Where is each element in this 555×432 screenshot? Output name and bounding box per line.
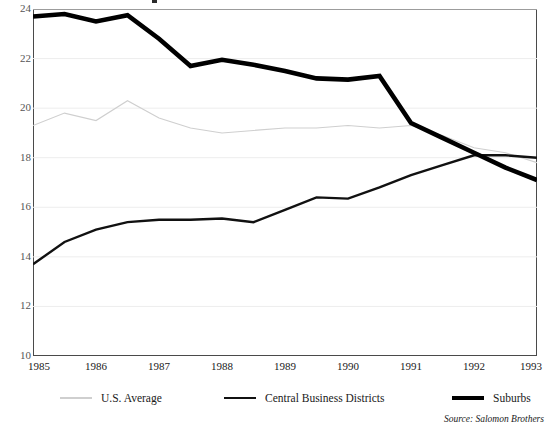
- x-axis-tick-label: 1988: [211, 360, 233, 372]
- legend-item-u-s-average[interactable]: U.S. Average: [60, 392, 162, 404]
- y-axis-tick-label: 14: [5, 251, 31, 262]
- chart-legend: U.S. AverageCentral Business DistrictsSu…: [0, 392, 555, 412]
- legend-swatch-icon: [60, 397, 92, 398]
- x-axis-tick-label: 1992: [463, 360, 485, 372]
- x-axis-tick-label: 1985: [28, 360, 50, 372]
- x-axis-tick-label: 1986: [85, 360, 107, 372]
- y-axis-tick-label: 24: [5, 3, 31, 14]
- y-axis-tick-label: 12: [5, 300, 31, 311]
- series-paths: [33, 14, 537, 264]
- legend-label: Suburbs: [493, 392, 531, 404]
- y-axis-tick-label: 16: [5, 201, 31, 212]
- x-axis-tick-label: 1991: [400, 360, 422, 372]
- x-axis-tick-label: 1987: [148, 360, 170, 372]
- y-axis-tick-label: 18: [5, 152, 31, 163]
- legend-swatch-icon: [224, 397, 256, 399]
- y-axis: 1012141618202224: [0, 0, 31, 365]
- legend-item-suburbs[interactable]: Suburbs: [452, 392, 531, 404]
- plot-svg: [33, 9, 537, 356]
- x-axis-tick-label: 1989: [274, 360, 296, 372]
- x-axis-tick-label: 1993: [520, 360, 542, 372]
- gridlines: [33, 9, 537, 306]
- legend-item-central-business-districts[interactable]: Central Business Districts: [224, 392, 384, 404]
- source-note: Source: Salomon Brothers: [444, 414, 544, 424]
- series-line-u-s-average: [33, 101, 537, 163]
- y-axis-tick-label: 20: [5, 102, 31, 113]
- legend-label: Central Business Districts: [265, 392, 384, 404]
- y-axis-tick-label: 22: [5, 53, 31, 64]
- legend-swatch-icon: [452, 396, 484, 401]
- series-line-central-business-districts: [33, 155, 537, 264]
- chart-container: 1012141618202224 19851986198719881989199…: [0, 0, 555, 432]
- legend-label: U.S. Average: [101, 392, 162, 404]
- cropped-title-fragment: [152, 0, 157, 3]
- x-axis: 198519861987198819891990199119921993: [33, 360, 537, 382]
- series-line-suburbs: [33, 14, 537, 180]
- x-axis-tick-label: 1990: [337, 360, 359, 372]
